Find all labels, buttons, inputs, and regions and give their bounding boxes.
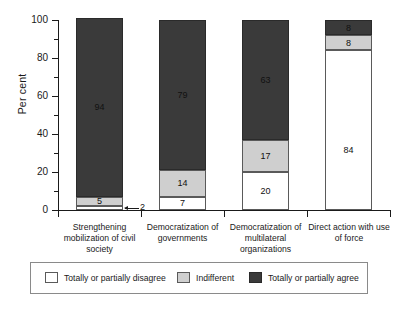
y-tick-minor-10 [54, 191, 59, 192]
bar-0-label-indifferent: 5 [97, 197, 102, 207]
bar-3-segment-agree: 8 [325, 20, 372, 35]
x-category-label-3: Direct action with use of force [306, 222, 392, 244]
y-tick-label-60: 60 [8, 90, 48, 101]
bar-0-label-agree: 94 [94, 102, 104, 112]
y-tick-100 [52, 20, 59, 21]
bar-2-label-disagree: 20 [260, 186, 270, 196]
bar-0-segment-agree: 94 [76, 18, 123, 197]
x-tick-4 [390, 211, 391, 217]
bar-0-segment-indifferent: 5 [76, 197, 123, 207]
bar-2-label-agree: 63 [260, 75, 270, 85]
bar-2-segment-agree: 63 [242, 20, 289, 140]
bar-1-segment-indifferent: 14 [159, 170, 206, 197]
legend-swatch-indifferent-icon [177, 272, 190, 283]
bar-1-label-agree: 79 [177, 90, 187, 100]
bar-1-label-disagree: 7 [180, 198, 185, 208]
y-tick-label-0: 0 [8, 204, 48, 215]
x-tick-2 [224, 211, 225, 217]
y-tick-minor-90 [54, 39, 59, 40]
y-tick-minor-50 [54, 115, 59, 116]
y-tick-40 [52, 134, 59, 135]
y-tick-label-20: 20 [8, 166, 48, 177]
legend: Totally or partially disagree Indifferen… [30, 262, 368, 294]
bar-3-label-indifferent: 8 [346, 38, 351, 48]
x-tick-3 [307, 211, 308, 217]
x-category-label-2-line-2: organizations [223, 244, 308, 255]
bar-2-label-indifferent: 17 [260, 151, 270, 161]
bar-1-segment-disagree: 7 [159, 197, 206, 210]
bar-3-segment-disagree: 84 [325, 50, 372, 210]
y-tick-label-100: 100 [8, 14, 48, 25]
callout-arrow-bar0-disagree [124, 206, 128, 210]
x-category-label-3-line-1: of force [306, 233, 392, 244]
legend-label-disagree: Totally or partially disagree [64, 273, 166, 283]
legend-item-indifferent: Indifferent [177, 272, 234, 283]
bar-3-label-disagree: 84 [343, 145, 353, 155]
legend-swatch-agree-icon [249, 272, 262, 283]
x-category-label-2-line-1: multilateral [223, 233, 308, 244]
y-tick-label-80: 80 [8, 52, 48, 63]
x-category-label-1-line-1: governments [140, 233, 225, 244]
legend-item-agree: Totally or partially agree [249, 272, 359, 283]
x-category-label-0-line-2: society [57, 244, 142, 255]
y-tick-80 [52, 58, 59, 59]
x-category-label-3-line-0: Direct action with use [306, 222, 392, 233]
x-category-label-2: Democratization of multilateral organiza… [223, 222, 308, 255]
bar-2-segment-indifferent: 17 [242, 140, 289, 172]
y-tick-minor-30 [54, 153, 59, 154]
bar-3-segment-indifferent: 8 [325, 35, 372, 50]
bar-3-label-agree: 8 [346, 23, 351, 33]
x-category-label-1: Democratization of governments [140, 222, 225, 244]
y-tick-label-40: 40 [8, 128, 48, 139]
x-category-label-0-line-0: Strengthening [57, 222, 142, 233]
x-category-label-2-line-0: Democratization of [223, 222, 308, 233]
bar-1-label-indifferent: 14 [177, 178, 187, 188]
x-category-label-1-line-0: Democratization of [140, 222, 225, 233]
y-tick-minor-70 [54, 77, 59, 78]
bar-0-segment-disagree [76, 206, 123, 210]
bar-2-segment-disagree: 20 [242, 172, 289, 210]
legend-label-agree: Totally or partially agree [268, 273, 359, 283]
legend-item-disagree: Totally or partially disagree [45, 272, 166, 283]
y-tick-20 [52, 172, 59, 173]
chart-container: Per cent 100 80 60 40 20 0 5 94 2 [0, 0, 397, 310]
legend-label-indifferent: Indifferent [196, 273, 234, 283]
x-category-label-0: Strengthening mobilization of civil soci… [57, 222, 142, 255]
x-category-label-0-line-1: mobilization of civil [57, 233, 142, 244]
bar-1-segment-agree: 79 [159, 20, 206, 170]
legend-swatch-disagree-icon [45, 272, 58, 283]
y-tick-60 [52, 96, 59, 97]
bar-0-label-disagree: 2 [140, 202, 145, 212]
x-tick-0 [58, 211, 59, 217]
